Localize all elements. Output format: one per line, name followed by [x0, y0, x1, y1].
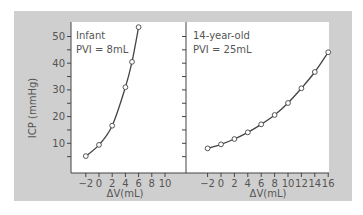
data-point-marker: [272, 113, 277, 118]
x-tick-label: −2: [78, 178, 93, 189]
x-tick-label: 8: [271, 178, 277, 189]
x-tick-label: 0: [218, 178, 224, 189]
data-point-marker: [326, 50, 331, 55]
icp-volume-chart: ICP (mmHg) Infant PVI = 8mL 14-year-old …: [0, 0, 363, 215]
x-axis-title-left: ΔV(mL): [107, 188, 144, 199]
data-point-marker: [205, 146, 210, 151]
data-point-marker: [219, 142, 224, 147]
x-tick-label: 16: [322, 178, 335, 189]
y-tick-label: 50: [52, 31, 65, 42]
data-point-marker: [299, 86, 304, 91]
x-tick-label: −2: [200, 178, 215, 189]
panel-left-subtitle: PVI = 8mL: [76, 44, 129, 55]
x-tick-label: 10: [282, 178, 295, 189]
data-point-marker: [110, 123, 115, 128]
data-point-marker: [130, 59, 135, 64]
x-tick-label: 4: [245, 178, 251, 189]
x-tick-label: 0: [96, 178, 102, 189]
data-point-marker: [136, 25, 141, 30]
x-tick-label: 14: [308, 178, 321, 189]
y-tick-label: 20: [52, 111, 65, 122]
x-tick-label: 2: [109, 178, 115, 189]
data-point-marker: [97, 143, 102, 148]
data-point-marker: [232, 137, 237, 142]
panel-right-subtitle: PVI = 25mL: [193, 44, 252, 55]
data-point-marker: [312, 70, 317, 75]
x-tick-label: 2: [231, 178, 237, 189]
x-tick-label: 6: [135, 178, 141, 189]
y-tick-label: 40: [52, 58, 65, 69]
x-tick-label: 6: [258, 178, 264, 189]
data-point-marker: [245, 130, 250, 135]
x-tick-label: 8: [149, 178, 155, 189]
y-tick-label: 30: [52, 84, 65, 95]
y-axis-title: ICP (mmHg): [27, 78, 38, 138]
data-point-marker: [123, 85, 128, 90]
data-point-marker: [286, 101, 291, 106]
x-tick-label: 12: [295, 178, 308, 189]
x-axis-title-right: ΔV(mL): [250, 188, 287, 199]
data-point-marker: [259, 122, 264, 127]
panel-right-title: 14-year-old: [193, 30, 250, 41]
x-tick-label: 10: [159, 178, 172, 189]
x-tick-label: 4: [122, 178, 128, 189]
data-point-marker: [83, 154, 88, 159]
y-tick-label: 10: [52, 138, 65, 149]
panel-left-title: Infant: [76, 30, 105, 41]
